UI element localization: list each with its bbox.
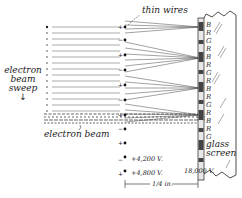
wire-sign: − — [118, 97, 123, 103]
thin-wires-label: thin wires — [142, 6, 188, 15]
sweep-arrow-icon: ↓ — [2, 93, 44, 102]
strip-letter: R — [206, 126, 211, 133]
strip-letter: G — [206, 134, 212, 141]
strip-letter: B — [206, 22, 211, 29]
focus-lines — [125, 21, 200, 122]
strip-letter: R — [206, 62, 211, 69]
electron-beam-label: electron beam — [44, 130, 110, 139]
strip-letter: G — [206, 102, 212, 109]
voltage-plus-label: +4,800 V. — [131, 170, 163, 177]
screen-voltage-label: 18,000 V. — [184, 168, 214, 175]
voltage-minus-label: +4,200 V. — [131, 156, 163, 163]
strip-letter: G — [206, 70, 212, 77]
strip-letter: B — [206, 118, 211, 125]
wire-sign: − — [118, 67, 123, 73]
legend-minus-sign: − — [118, 157, 123, 163]
strip-letter: R — [206, 30, 211, 37]
wire-sign: + — [118, 24, 123, 30]
strip-letter: B — [206, 86, 211, 93]
legend-plus-sign: + — [118, 171, 123, 177]
wire-sign: + — [118, 112, 123, 118]
strip-letter: R — [206, 94, 211, 101]
strip-letter: B — [206, 54, 211, 61]
electron-beam-sweep-label: electron beam sweep ↓ — [2, 66, 44, 102]
wire-sign: + — [118, 140, 123, 146]
thin-wires-pointer — [128, 15, 140, 25]
wire-sign: + — [118, 82, 123, 88]
glass-screen-line-2: screen — [206, 149, 236, 158]
phosphor-stripes — [199, 22, 204, 162]
beam-paths — [52, 27, 120, 111]
strip-letter: R — [206, 110, 211, 117]
glass-screen-label: glass screen — [206, 140, 236, 158]
scale-label: 1/4 in. — [152, 181, 173, 188]
strip-letter: G — [206, 38, 212, 45]
wire-sign: + — [118, 52, 123, 58]
wire-sign: − — [118, 37, 123, 43]
thin-wire-dots — [124, 26, 127, 173]
strip-letter: R — [206, 78, 211, 85]
strip-letter: R — [206, 46, 211, 53]
wire-sign: − — [118, 126, 123, 132]
